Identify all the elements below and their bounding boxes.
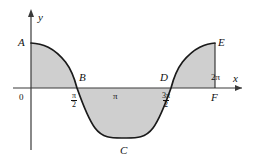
x-axis-arrowhead [235,85,242,91]
point-label-e: E [218,37,225,48]
tick-label-two-pi: 2π [211,73,220,82]
shaded-region-trough [77,88,171,138]
y-axis-label: y [38,12,43,23]
point-label-c: C [120,145,127,156]
tick-label-half-pi: π 2 [71,92,77,109]
point-label-a: A [18,37,25,48]
point-label-d: D [160,72,168,83]
figure-canvas: y x 0 A B C D E F π 2 π 3π 2 2π [0,0,257,161]
origin-label: 0 [19,93,24,102]
tick-half-pi-denominator: 2 [71,100,77,109]
tick-half-pi-numerator: π [71,92,77,100]
shaded-region-first-arch [31,43,77,88]
tick-label-pi: π [113,92,118,101]
point-label-f: F [211,92,218,103]
shaded-region-last-arch [171,43,215,88]
x-axis-label: x [233,73,238,84]
tick-label-three-half-pi: 3π 2 [161,92,171,109]
point-label-b: B [79,72,86,83]
tick-three-half-pi-numerator: 3π [161,92,171,100]
y-axis-arrowhead [28,9,34,17]
tick-three-half-pi-denominator: 2 [163,100,169,109]
